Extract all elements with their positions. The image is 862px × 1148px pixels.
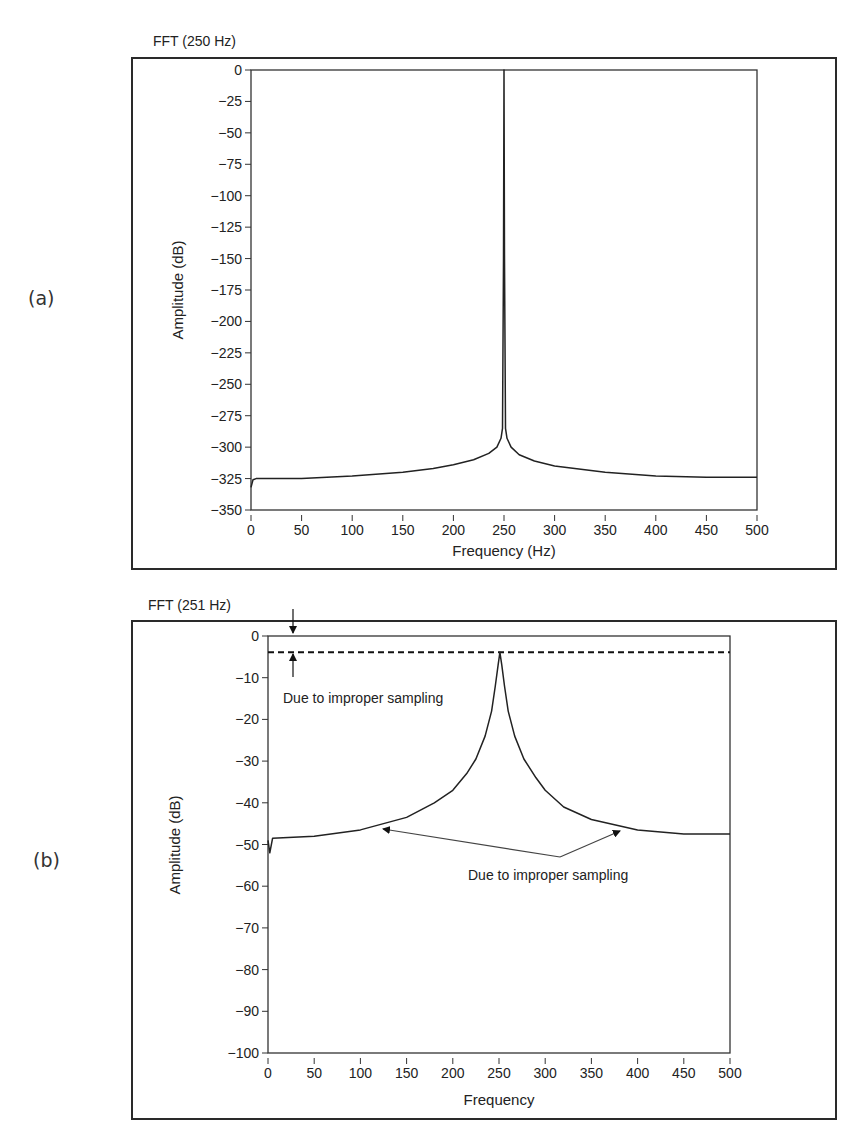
- chart-canvas: 0−25−50−75−100−125−150−175−200−225−250−2…: [0, 0, 862, 1148]
- annotation-text-bottom: Due to improper sampling: [468, 867, 628, 883]
- y-tick-label: −250: [210, 376, 242, 392]
- x-tick-label: 50: [294, 522, 310, 538]
- chart-b: 0−10−20−30−40−50−60−70−80−90−10005010015…: [166, 609, 742, 1108]
- x-tick-label: 400: [644, 522, 668, 538]
- x-axis: 050100150200250300350400450500: [247, 515, 769, 538]
- y-tick-label: −225: [210, 345, 242, 361]
- x-tick-label: 50: [306, 1065, 322, 1081]
- y-tick-label: −200: [210, 313, 242, 329]
- x-tick-label: 100: [341, 522, 365, 538]
- chart-a: 0−25−50−75−100−125−150−175−200−225−250−2…: [169, 62, 769, 559]
- y-tick-label: −175: [210, 282, 242, 298]
- y-axis-label: Amplitude (dB): [166, 795, 183, 894]
- y-tick-label: 0: [251, 628, 259, 644]
- x-tick-label: 250: [492, 522, 516, 538]
- x-tick-label: 350: [580, 1065, 604, 1081]
- x-tick-label: 300: [534, 1065, 558, 1081]
- x-axis-label: Frequency (Hz): [452, 542, 555, 559]
- x-tick-label: 500: [718, 1065, 742, 1081]
- y-tick-label: −75: [218, 156, 242, 172]
- x-tick-label: 450: [672, 1065, 696, 1081]
- y-tick-label: −60: [235, 878, 259, 894]
- y-tick-label: 0: [234, 62, 242, 78]
- x-tick-label: 150: [395, 1065, 419, 1081]
- y-axis: 0−25−50−75−100−125−150−175−200−225−250−2…: [210, 62, 251, 518]
- x-tick-label: 150: [391, 522, 415, 538]
- annotation-text-top: Due to improper sampling: [283, 690, 443, 706]
- y-tick-label: −325: [210, 471, 242, 487]
- arrow-left-icon: [383, 829, 560, 857]
- x-tick-label: 400: [626, 1065, 650, 1081]
- x-tick-label: 200: [441, 1065, 465, 1081]
- y-tick-label: −20: [235, 711, 259, 727]
- x-tick-label: 500: [745, 522, 769, 538]
- y-tick-label: −150: [210, 251, 242, 267]
- y-axis: 0−10−20−30−40−50−60−70−80−90−100: [227, 628, 268, 1061]
- x-tick-label: 350: [594, 522, 618, 538]
- x-tick-label: 300: [543, 522, 567, 538]
- y-tick-label: −100: [227, 1045, 259, 1061]
- x-axis-label: Frequency: [464, 1091, 535, 1108]
- x-tick-label: 100: [349, 1065, 373, 1081]
- y-tick-label: −25: [218, 93, 242, 109]
- y-tick-label: −80: [235, 962, 259, 978]
- y-tick-label: −40: [235, 795, 259, 811]
- y-tick-label: −275: [210, 408, 242, 424]
- x-tick-label: 250: [487, 1065, 511, 1081]
- y-tick-label: −50: [218, 125, 242, 141]
- y-tick-label: −50: [235, 837, 259, 853]
- y-tick-label: −30: [235, 753, 259, 769]
- annotation-group: Due to improper samplingDue to improper …: [283, 609, 628, 883]
- y-tick-label: −300: [210, 439, 242, 455]
- x-tick-label: 450: [695, 522, 719, 538]
- series-line: [251, 70, 757, 487]
- x-tick-label: 0: [247, 522, 255, 538]
- x-tick-label: 200: [442, 522, 466, 538]
- arrow-right-icon: [560, 831, 620, 857]
- y-tick-label: −350: [210, 502, 242, 518]
- y-tick-label: −100: [210, 188, 242, 204]
- y-axis-label: Amplitude (dB): [169, 240, 186, 339]
- x-tick-label: 0: [264, 1065, 272, 1081]
- y-tick-label: −70: [235, 920, 259, 936]
- y-tick-label: −125: [210, 219, 242, 235]
- series-line: [268, 652, 730, 853]
- y-tick-label: −10: [235, 670, 259, 686]
- x-axis: 050100150200250300350400450500: [264, 1058, 742, 1081]
- y-tick-label: −90: [235, 1003, 259, 1019]
